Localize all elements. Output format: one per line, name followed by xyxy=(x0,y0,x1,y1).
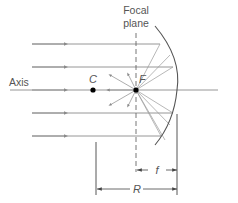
center-of-curvature-point xyxy=(90,87,95,92)
center-label: C xyxy=(89,73,97,85)
focal-plane-label-line1: Focal xyxy=(123,4,149,16)
concave-mirror-diagram: Focal plane Axis C F f R xyxy=(0,0,238,203)
focal-length-label: f xyxy=(155,164,159,176)
focal-plane-label-line2: plane xyxy=(123,17,149,29)
radius-label: R xyxy=(133,183,141,195)
focal-point-label: F xyxy=(139,73,147,85)
axis-label: Axis xyxy=(9,76,29,88)
diverging-rays xyxy=(108,74,136,106)
focal-point xyxy=(133,87,138,92)
